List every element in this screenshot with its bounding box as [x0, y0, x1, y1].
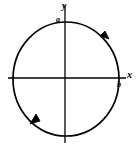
y-axis-label: y — [62, 1, 66, 11]
right-point-label: b — [117, 81, 121, 89]
figure-container: y x a b — [0, 0, 137, 152]
upper-right-direction-arrow-icon — [100, 31, 109, 39]
circle-diagram-svg — [0, 0, 137, 152]
lower-left-direction-arrow-icon — [30, 114, 40, 124]
circle-shape — [13, 22, 119, 136]
top-point-label: a — [56, 16, 60, 24]
x-axis-label: x — [127, 70, 132, 80]
